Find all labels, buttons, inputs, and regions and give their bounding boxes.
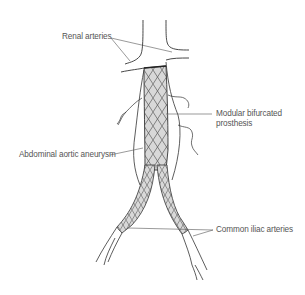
leader-renal-right	[111, 38, 172, 52]
left-branch-vessels	[117, 98, 142, 125]
right-branch-vessels	[168, 95, 198, 155]
label-renal-arteries: Renal arteries	[62, 32, 112, 42]
leader-iliac-right	[193, 230, 213, 236]
upper-aorta	[121, 20, 189, 72]
label-abdominal-aortic-aneurysm: Abdominal aortic aneurysm	[19, 150, 116, 160]
stent-graft-main-body	[144, 66, 168, 170]
label-common-iliac-arteries: Common iliac arteries	[216, 225, 293, 235]
iliac-arteries	[96, 227, 207, 280]
label-modular-prosthesis-line1: Modular bifurcated	[216, 109, 282, 119]
leader-iliac-left	[128, 228, 213, 230]
diagram-illustration	[0, 0, 305, 295]
aortic-stent-diagram: Renal arteries Modular bifurcated prosth…	[0, 0, 305, 295]
stent-graft-left-limb	[117, 165, 155, 233]
label-modular-prosthesis-line2: prosthesis	[216, 119, 252, 129]
stent-graft-right-limb	[157, 165, 188, 234]
